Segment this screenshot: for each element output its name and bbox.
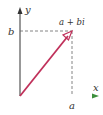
- x-axis-label: x: [93, 82, 99, 93]
- vector-arrowhead-icon: [63, 31, 72, 40]
- complex-vector: [20, 31, 72, 96]
- y-axis: [18, 7, 23, 96]
- complex-plane-diagram: y b a + bi x a: [0, 0, 103, 115]
- b-tick-label: b: [8, 26, 14, 37]
- y-axis-label: y: [24, 4, 31, 15]
- x-axis: [20, 94, 99, 99]
- point-label: a + bi: [59, 17, 85, 27]
- a-tick-label: a: [69, 100, 75, 111]
- y-axis-arrow-icon: [18, 7, 23, 14]
- x-axis-arrow-icon: [92, 94, 99, 99]
